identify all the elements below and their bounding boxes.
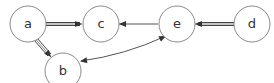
svg-text:b: b	[59, 63, 67, 78]
edge-d-e	[195, 23, 234, 26]
graph-diagram: a b c d e	[0, 0, 274, 83]
node-a[interactable]: a	[10, 6, 46, 42]
node-e[interactable]: e	[159, 6, 195, 42]
svg-text:e: e	[173, 16, 181, 31]
svg-text:d: d	[248, 16, 256, 31]
svg-text:c: c	[97, 16, 104, 31]
node-d[interactable]: d	[234, 6, 270, 42]
edge-a-c	[46, 23, 82, 26]
node-c[interactable]: c	[83, 6, 119, 42]
edge-a-b	[34, 38, 51, 57]
node-b[interactable]: b	[45, 53, 81, 83]
svg-text:a: a	[24, 16, 32, 31]
